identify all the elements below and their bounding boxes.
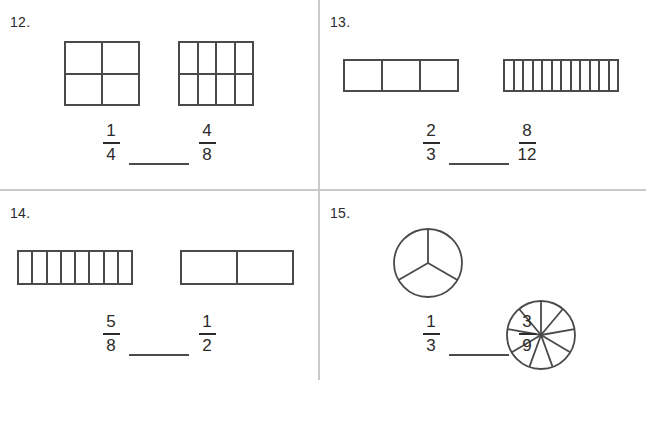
fraction-bar xyxy=(519,142,536,144)
figure-row xyxy=(320,223,638,309)
answer-blank[interactable] xyxy=(129,163,189,165)
answer-blank[interactable] xyxy=(129,354,189,356)
left-fraction: 1 3 xyxy=(418,313,444,356)
fraction-model-bar-12 xyxy=(503,59,619,92)
fraction-model-square-4 xyxy=(64,41,140,106)
fraction-model-bar-8 xyxy=(17,250,133,285)
left-fraction: 5 8 xyxy=(98,313,124,356)
fraction-model-circle-3 xyxy=(392,227,646,299)
right-fraction: 8 12 xyxy=(514,122,540,165)
numerator: 8 xyxy=(522,122,531,141)
fraction-bar xyxy=(423,333,440,335)
numerator: 2 xyxy=(426,122,435,141)
denominator: 3 xyxy=(426,146,435,164)
denominator: 2 xyxy=(202,337,211,355)
fraction-bar xyxy=(423,142,440,144)
fraction-bar xyxy=(103,142,120,144)
left-fraction: 1 4 xyxy=(98,122,124,165)
denominator: 3 xyxy=(426,337,435,355)
denominator: 8 xyxy=(202,146,211,164)
problem-number: 13. xyxy=(330,14,350,30)
denominator: 12 xyxy=(518,146,537,164)
comparison-row: 1 3 3 9 xyxy=(320,313,638,369)
answer-blank[interactable] xyxy=(449,354,509,356)
problem-number: 12. xyxy=(10,14,30,30)
comparison-row: 5 8 1 2 xyxy=(0,313,318,369)
problem-number: 15. xyxy=(330,205,350,221)
problem-14: 14. 5 8 xyxy=(0,191,318,380)
right-fraction: 1 2 xyxy=(194,313,220,356)
denominator: 4 xyxy=(106,146,115,164)
left-fraction: 2 3 xyxy=(418,122,444,165)
numerator: 1 xyxy=(426,313,435,332)
problem-13: 13. 2 xyxy=(320,0,638,189)
problem-15: 15. xyxy=(320,191,638,380)
fraction-model-square-8 xyxy=(178,41,254,106)
problem-number: 14. xyxy=(10,205,30,221)
numerator: 3 xyxy=(522,313,531,332)
comparison-row: 2 3 8 12 xyxy=(320,122,638,178)
figure-row xyxy=(0,223,318,309)
answer-blank[interactable] xyxy=(449,163,509,165)
fraction-bar xyxy=(199,142,216,144)
right-fraction: 3 9 xyxy=(514,313,540,356)
figure-row xyxy=(0,32,318,118)
numerator: 5 xyxy=(106,313,115,332)
right-fraction: 4 8 xyxy=(194,122,220,165)
denominator: 9 xyxy=(522,337,531,355)
fraction-model-bar-2 xyxy=(180,250,294,285)
fraction-bar xyxy=(519,333,536,335)
fraction-model-bar-3 xyxy=(343,59,459,92)
fraction-bar xyxy=(199,333,216,335)
comparison-row: 1 4 4 8 xyxy=(0,122,318,178)
numerator: 1 xyxy=(106,122,115,141)
denominator: 8 xyxy=(106,337,115,355)
page-footer: 78 © Carson Dellosa Education PLACE STIC… xyxy=(0,380,646,445)
fraction-bar xyxy=(103,333,120,335)
worksheet-grid: 12. 1 4 xyxy=(0,0,646,380)
numerator: 4 xyxy=(202,122,211,141)
figure-row xyxy=(320,32,638,118)
problem-12: 12. 1 4 xyxy=(0,0,318,189)
numerator: 1 xyxy=(202,313,211,332)
